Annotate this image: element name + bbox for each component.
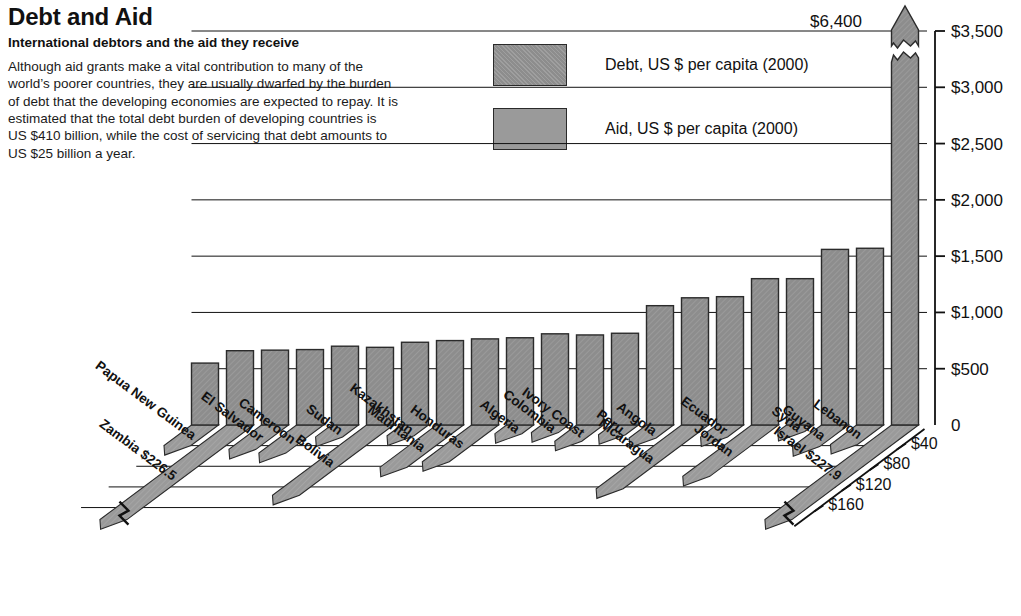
- chart-svg: Papua New GuineaZambia $226.5El Salvador…: [0, 0, 1021, 616]
- debt-axis-tick-label: $3,000: [951, 78, 1003, 97]
- debt-axis-tick-label: $1,500: [951, 247, 1003, 266]
- aid-axis-tick-label: $120: [856, 476, 892, 493]
- aid-axis-tick-label: $40: [911, 435, 938, 452]
- debt-axis-tick-label: $500: [951, 360, 989, 379]
- debt-axis-tick-label: $1,000: [951, 303, 1003, 322]
- debt-bar: [717, 297, 744, 425]
- debt-bar: [822, 249, 849, 425]
- debt-axis-tick-label: $3,500: [951, 22, 1003, 41]
- debt-axis-tick-label: $2,000: [951, 191, 1003, 210]
- debt-axis-tick-label: $2,500: [951, 135, 1003, 154]
- debt-axis-tick-label: 0: [951, 416, 960, 435]
- debt-bar-arrow-tip: [892, 6, 919, 48]
- debt-bar: [857, 248, 884, 425]
- israel-peak-label: $6,400: [810, 12, 862, 31]
- aid-axis-tick: [897, 444, 906, 450]
- debt-axis: 0$500$1,000$1,500$2,000$2,500$3,000$3,50…: [935, 22, 1003, 435]
- debt-and-aid-chart: Papua New GuineaZambia $226.5El Salvador…: [0, 0, 1021, 616]
- debt-bar: [752, 279, 779, 425]
- debt-bars: [192, 6, 919, 425]
- aid-axis-tick-label: $160: [828, 496, 864, 513]
- debt-bar: [437, 341, 464, 425]
- aid-axis-tick: [869, 464, 878, 470]
- aid-axis-tick-label: $80: [883, 455, 910, 472]
- debt-bar: [647, 306, 674, 425]
- aid-axis-tick: [814, 505, 823, 511]
- aid-axis-tick: [842, 485, 851, 491]
- debt-bar-broken: [892, 52, 919, 425]
